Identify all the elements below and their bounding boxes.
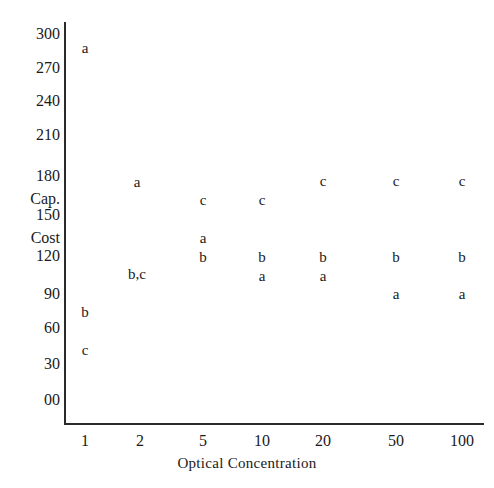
data-point-label: a bbox=[320, 269, 327, 284]
data-point-label: c bbox=[200, 193, 207, 208]
data-point-label: c bbox=[259, 193, 266, 208]
data-point-label: a bbox=[259, 269, 266, 284]
data-point-label: b,c bbox=[128, 267, 146, 282]
scatter-chart: 300270240210180Cap.150Cost12090603000 12… bbox=[0, 0, 494, 488]
data-point-label: c bbox=[393, 174, 400, 189]
data-point-label: c bbox=[82, 343, 89, 358]
data-point-label: b bbox=[392, 250, 400, 265]
plot-area: abcab,ccabcbacbacbacba bbox=[0, 0, 494, 488]
data-point-label: b bbox=[199, 250, 207, 265]
data-point-label: a bbox=[200, 231, 207, 246]
data-point-label: c bbox=[320, 174, 327, 189]
data-point-label: b bbox=[81, 305, 89, 320]
data-point-label: b bbox=[458, 250, 466, 265]
data-point-label: b bbox=[258, 250, 266, 265]
data-point-label: c bbox=[459, 174, 466, 189]
data-point-label: a bbox=[393, 287, 400, 302]
data-point-label: a bbox=[134, 175, 141, 190]
data-point-label: a bbox=[459, 287, 466, 302]
data-point-label: a bbox=[82, 41, 89, 56]
x-axis-title: Optical Concentration bbox=[0, 455, 494, 472]
data-point-label: b bbox=[319, 250, 327, 265]
